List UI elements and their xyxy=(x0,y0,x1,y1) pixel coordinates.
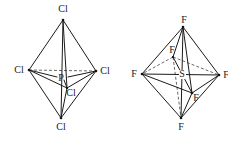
pcl5-label-front: Cl xyxy=(66,87,76,98)
pcl5-vertex-right xyxy=(95,70,98,73)
pcl5-label-left: Cl xyxy=(14,64,24,75)
pcl5-edge-right-front xyxy=(67,71,96,88)
pcl5-axial-bond xyxy=(61,20,63,118)
pcl5-label-bottom: Cl xyxy=(56,121,66,132)
sf6-edge-bottom-front xyxy=(181,93,192,118)
sf6-vertex-back xyxy=(172,56,174,58)
sf6-label-front: F xyxy=(193,92,199,103)
sf6-label-left: F xyxy=(131,68,137,79)
pcl5-vertex-bottom xyxy=(60,117,63,120)
sf6-vertex-left xyxy=(141,73,144,76)
sf6-edge-back-left-dashed xyxy=(142,57,173,74)
sf6-vertex-top xyxy=(182,26,185,29)
pcl5-edge-top-left xyxy=(29,20,63,70)
sf6-vertex-right xyxy=(218,74,221,77)
pcl5-label-top: Cl xyxy=(58,3,68,14)
pcl5-label-center: P xyxy=(58,72,64,83)
sf6-label-bottom: F xyxy=(178,121,184,132)
pcl5-edge-left-right-dashed xyxy=(29,70,96,71)
sf6-diagram: F F F F S F F xyxy=(131,14,228,132)
pcl5-label-right: Cl xyxy=(100,65,110,76)
pcl5-edge-top-right xyxy=(63,20,96,71)
pcl5-vertex-top xyxy=(62,19,65,22)
molecular-geometry-figure: Cl Cl Cl P Cl Cl xyxy=(0,0,228,142)
pcl5-diagram: Cl Cl Cl P Cl Cl xyxy=(14,3,110,132)
sf6-edge-top-left xyxy=(142,27,183,74)
sf6-vertex-bottom xyxy=(180,117,183,120)
sf6-label-center: S xyxy=(179,68,185,79)
sf6-label-right: F xyxy=(223,69,228,80)
sf6-edge-bottom-left xyxy=(142,74,181,118)
sf6-label-back: F xyxy=(169,44,175,55)
sf6-label-top: F xyxy=(181,14,187,25)
sf6-edge-bottom-right xyxy=(181,75,219,118)
pcl5-vertex-left xyxy=(28,69,31,72)
